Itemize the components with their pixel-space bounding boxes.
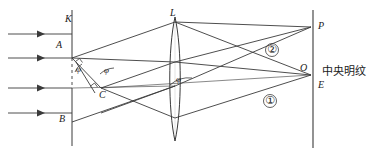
ray-lens-mid-to-O (175, 62, 311, 75)
right-angle-mark-upper (76, 59, 83, 63)
label-ray-one: ① (265, 95, 275, 106)
label-point-B: B (59, 114, 65, 124)
incoming-ray-4-arrowhead (37, 110, 45, 117)
ray-lens-top-to-O (175, 22, 311, 75)
label-point-O: O (300, 63, 307, 73)
incoming-ray-2-arrowhead (37, 55, 45, 62)
label-plate-K: K (65, 14, 72, 24)
label-screen-E: E (318, 80, 324, 90)
label-angle-phi-1: φ (76, 65, 81, 74)
ray-lens-top-to-P (175, 22, 311, 27)
ray-A-to-lens-top (72, 22, 175, 58)
ray-1-lens-bottom-to-O (175, 75, 311, 118)
incoming-ray-3-arrowhead (37, 85, 45, 92)
incoming-light-rays (8, 31, 72, 117)
label-point-A: A (56, 40, 62, 50)
ray-lower-bundle (101, 86, 175, 113)
label-central-bright-fringe: 中央明纹 (322, 66, 366, 77)
label-point-C: C (99, 90, 106, 100)
label-point-P: P (318, 21, 324, 31)
label-lens-L: L (170, 8, 176, 18)
label-angle-phi-3: φ (176, 75, 181, 84)
incoming-ray-1-arrowhead (37, 31, 45, 38)
label-angle-phi-2: φ (104, 66, 109, 75)
angle-arc-group (75, 64, 192, 85)
angle-arc-phi-axis (170, 78, 192, 85)
ray-C-to-lens-lower (101, 88, 175, 118)
optics-diffraction-diagram: K A B C L P O E 中央明纹 φ φ φ ② ① (0, 0, 373, 158)
diffracted-rays (72, 22, 175, 122)
ray-A-to-lens-mid (72, 58, 175, 62)
label-ray-two: ② (267, 44, 277, 55)
rays-lens-to-screen (175, 22, 311, 118)
